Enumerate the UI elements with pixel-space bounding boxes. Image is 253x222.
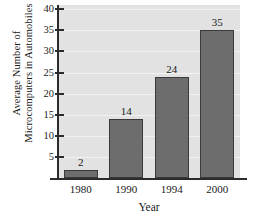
bar-rect: [155, 77, 189, 178]
bar: 24: [155, 5, 189, 178]
bar-chart-figure: Average Number of Microcomputers in Auto…: [0, 0, 253, 222]
x-tick-label: 1990: [103, 182, 149, 196]
y-tick-label: 30: [36, 45, 54, 57]
y-tick-label: 15: [36, 109, 54, 121]
y-tick-label: 20: [36, 88, 54, 100]
bar-rect: [200, 30, 234, 178]
bar-value-label: 14: [121, 105, 132, 117]
x-tick-label: 2000: [194, 182, 240, 196]
bar-value-label: 35: [212, 16, 223, 28]
y-tick-label: 5: [36, 151, 54, 163]
bar: 35: [200, 5, 234, 178]
x-axis-title: Year: [58, 200, 240, 214]
x-tick-label: 1994: [149, 182, 195, 196]
y-tick-label: 40: [36, 3, 54, 15]
bar-rect: [64, 170, 98, 178]
x-tick-label: 1980: [58, 182, 104, 196]
y-tick-label: 25: [36, 67, 54, 79]
bar-rect: [109, 119, 143, 178]
bars-layer: 2142435: [58, 5, 240, 178]
bar-value-label: 2: [78, 156, 84, 168]
y-tick-label: 35: [36, 24, 54, 36]
bar: 2: [64, 5, 98, 178]
bar: 14: [109, 5, 143, 178]
x-axis-tick-labels: 1980199019942000: [58, 182, 240, 198]
bar-value-label: 24: [166, 63, 177, 75]
y-tick-label: 10: [36, 130, 54, 142]
